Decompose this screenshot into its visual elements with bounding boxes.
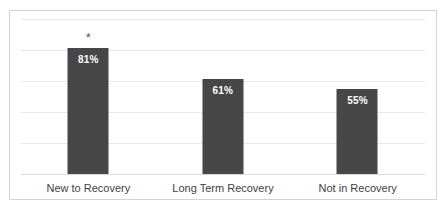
chart-bars: * 81% 61% 55% [21,19,425,174]
category-label-not-in-recovery: Not in Recovery [290,179,425,199]
bar-value-label-0: 81% [68,54,109,65]
category-label-new-to-recovery: New to Recovery [21,179,156,199]
bar-slot-1: 61% [156,19,291,174]
bar-value-label-1: 61% [202,85,243,96]
bar-slot-0: * 81% [21,19,156,174]
significance-asterisk-0: * [86,33,91,43]
bar-new-to-recovery[interactable]: 81% [68,48,109,174]
bar-chart-figure: * 81% 61% 55% New to Recovery Long Term … [0,0,447,212]
bar-slot-2: 55% [290,19,425,174]
chart-plot-frame: * 81% 61% 55% New to Recovery Long Term … [9,10,437,200]
x-axis-category-labels: New to Recovery Long Term Recovery Not i… [21,179,425,199]
category-label-long-term-recovery: Long Term Recovery [156,179,291,199]
bar-long-term-recovery[interactable]: 61% [202,79,243,174]
x-axis-baseline [21,174,425,175]
bar-value-label-2: 55% [337,95,378,106]
bar-not-in-recovery[interactable]: 55% [337,89,378,174]
